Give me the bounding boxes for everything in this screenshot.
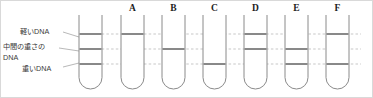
tube-letter-a: A: [129, 3, 136, 13]
tube-b-outline: [162, 15, 185, 89]
tube-e[interactable]: [285, 15, 308, 89]
leader-line-heavy: [63, 63, 79, 67]
tube-letter-f: F: [335, 3, 341, 13]
dna-centrifugation-figure: 軽いDNA 中間の重さの DNA 重いDNA A B C D E F: [0, 0, 373, 98]
leader-line-intermediate: [59, 48, 79, 51]
label-heavy-dna: 重いDNA: [22, 64, 51, 73]
tube-letters-group: A B C D E F: [129, 3, 341, 13]
reference[interactable]: [79, 15, 102, 89]
tube-c-outline: [203, 15, 226, 89]
tube-e-outline: [285, 15, 308, 89]
tube-letter-d: D: [252, 3, 259, 13]
leader-line-light: [63, 32, 79, 37]
label-intermediate-dna-line1: 中間の重さの: [3, 42, 45, 51]
tube-letter-c: C: [211, 3, 218, 13]
tubes-layer: [79, 15, 349, 89]
tube-c[interactable]: [203, 15, 226, 89]
tube-letter-e: E: [293, 3, 299, 13]
reference-outline: [79, 15, 102, 89]
leader-lines-group: [59, 32, 79, 67]
tube-a[interactable]: [121, 15, 144, 89]
band-labels-group: 軽いDNA 中間の重さの DNA 重いDNA: [3, 27, 51, 73]
tube-f[interactable]: [326, 15, 349, 89]
label-light-dna: 軽いDNA: [20, 27, 49, 36]
tube-b[interactable]: [162, 15, 185, 89]
tube-letter-b: B: [170, 3, 177, 13]
figure-canvas: 軽いDNA 中間の重さの DNA 重いDNA A B C D E F: [1, 1, 373, 98]
tube-d-outline: [244, 15, 267, 89]
tube-d[interactable]: [244, 15, 267, 89]
tube-f-outline: [326, 15, 349, 89]
tube-a-outline: [121, 15, 144, 89]
label-intermediate-dna-line2: DNA: [3, 53, 18, 62]
